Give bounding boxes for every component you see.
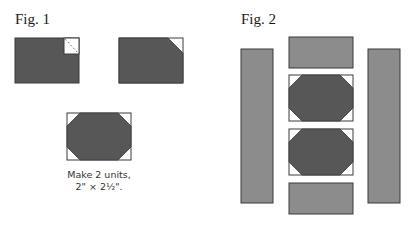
fig1-step2-unit (119, 38, 183, 83)
fig2-left-strip (241, 49, 273, 203)
caption-line-2: 2" × 2½". (39, 181, 159, 193)
fig2-bottom-rectangle (289, 183, 353, 214)
fig2-octagon-unit-2 (289, 129, 353, 175)
fig2-top-rectangle (289, 37, 353, 68)
fig2-octagon-unit-1 (289, 75, 353, 121)
figure-1-caption: Make 2 units, 2" × 2½". (39, 169, 159, 193)
caption-line-1: Make 2 units, (39, 169, 159, 181)
fig1-octagon-unit (67, 113, 131, 160)
fig1-step1-unit (15, 38, 79, 83)
fig2-right-strip (368, 49, 400, 203)
